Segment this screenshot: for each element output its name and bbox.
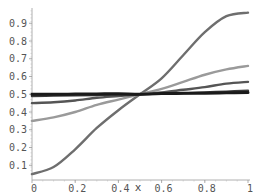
x-tick-label: 0.6 bbox=[155, 183, 173, 194]
y-tick-label: 0.3 bbox=[9, 124, 27, 135]
series-curve-5 bbox=[32, 92, 248, 94]
y-tick-label: 0.1 bbox=[9, 160, 27, 171]
y-tick-label: 0.5 bbox=[9, 89, 27, 100]
x-tick-label: 1 bbox=[247, 183, 253, 194]
x-tick-label: 0 bbox=[31, 183, 37, 194]
x-axis: 00.20.40.60.81 bbox=[31, 180, 253, 194]
y-tick-label: 0.2 bbox=[9, 142, 27, 153]
x-tick-label: 0.4 bbox=[111, 183, 129, 194]
x-tick-label: 0.2 bbox=[68, 183, 86, 194]
series-layer bbox=[32, 13, 248, 175]
y-tick-label: 0.6 bbox=[9, 71, 27, 82]
y-tick-label: 0.8 bbox=[9, 36, 27, 47]
y-tick-label: 0.9 bbox=[9, 18, 27, 29]
x-axis-label: x bbox=[135, 181, 142, 194]
y-axis: 0.10.20.30.40.50.60.70.80.9 bbox=[9, 8, 32, 180]
y-tick-label: 0.4 bbox=[9, 107, 27, 118]
x-tick-label: 0.8 bbox=[198, 183, 216, 194]
y-tick-label: 0.7 bbox=[9, 53, 27, 64]
line-chart: 0.10.20.30.40.50.60.70.80.9 00.20.40.60.… bbox=[0, 0, 256, 196]
